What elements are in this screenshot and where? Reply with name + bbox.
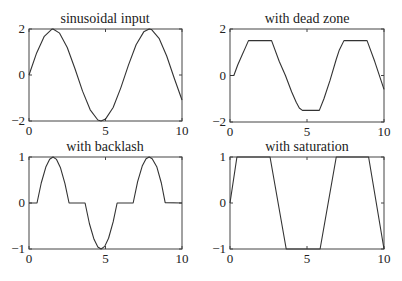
x-tick-label: 10: [378, 251, 391, 266]
y-tick-label: 0: [19, 195, 26, 210]
subplot-title: with backlash: [66, 139, 143, 154]
x-tick-label: 0: [227, 251, 234, 266]
x-tick-label: 0: [26, 251, 33, 266]
subplot-title: with dead zone: [265, 11, 350, 26]
x-tick-label: 0: [26, 123, 33, 138]
x-tick-label: 10: [176, 123, 189, 138]
x-tick-label: 5: [304, 124, 311, 139]
x-tick-label: 5: [102, 251, 109, 266]
figure: sinusoidal input 0510−202 with dead zone…: [0, 0, 402, 281]
y-tick-label: 2: [220, 21, 227, 36]
subplot-title: sinusoidal input: [60, 11, 149, 26]
data-line: [29, 29, 182, 121]
x-tick-label: 5: [102, 123, 109, 138]
subplot-saturation: with saturation 0510−101: [212, 139, 390, 266]
axes-box: [230, 157, 384, 249]
data-line: [230, 157, 384, 249]
data-line: [230, 41, 384, 111]
x-tick-label: 5: [304, 251, 311, 266]
axes-box: [29, 157, 182, 249]
y-tick-label: −2: [11, 113, 25, 128]
x-tick-label: 0: [227, 124, 234, 139]
subplot-backlash: with backlash 0510−101: [11, 139, 188, 266]
y-tick-label: 0: [220, 68, 227, 83]
subplot-title: with saturation: [265, 139, 349, 154]
x-tick-label: 10: [176, 251, 189, 266]
data-line: [29, 157, 182, 249]
y-tick-label: 2: [19, 21, 26, 36]
x-tick-label: 10: [378, 124, 391, 139]
axes-box: [29, 29, 182, 121]
y-tick-label: 1: [19, 149, 26, 164]
axes-box: [230, 29, 384, 122]
subplot-dead-zone: with dead zone 0510−202: [212, 11, 390, 139]
y-tick-label: 0: [220, 195, 227, 210]
subplot-sinusoidal-input: sinusoidal input 0510−202: [11, 11, 188, 138]
y-tick-label: 0: [19, 67, 26, 82]
y-tick-label: 1: [220, 149, 227, 164]
y-tick-label: −2: [212, 114, 226, 129]
y-tick-label: −1: [212, 241, 226, 256]
y-tick-label: −1: [11, 241, 25, 256]
